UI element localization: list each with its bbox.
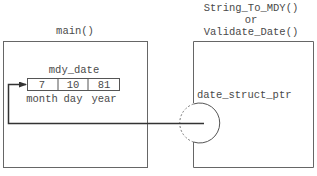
month-label: month — [26, 93, 58, 105]
struct-name-label: mdy_date — [49, 64, 99, 76]
callee-label-line3: Validate_Date() — [204, 26, 299, 38]
pointer-diagram: main() mdy_date 7 10 81 month day year S… — [0, 0, 317, 176]
day-value: 10 — [67, 79, 80, 91]
callee-label-line1: String_To_MDY() — [204, 2, 299, 14]
callee-function-box: String_To_MDY() or Validate_Date() date_… — [194, 2, 314, 168]
month-value: 7 — [39, 79, 45, 91]
day-label: day — [64, 93, 83, 105]
year-label: year — [91, 93, 116, 105]
parameter-label: date_struct_ptr — [197, 89, 292, 101]
callee-label-or: or — [245, 14, 258, 26]
main-function-label: main() — [56, 25, 94, 37]
year-value: 81 — [98, 79, 111, 91]
mdy-date-struct: mdy_date 7 10 81 month day year — [26, 64, 119, 105]
